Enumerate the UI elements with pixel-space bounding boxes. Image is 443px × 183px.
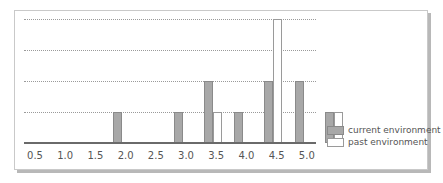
bar-past bbox=[213, 112, 222, 143]
gridline-3 bbox=[24, 50, 316, 51]
x-axis-line bbox=[24, 142, 316, 144]
x-tick-label: 1.5 bbox=[80, 150, 110, 161]
x-tick-label: 3.5 bbox=[201, 150, 231, 161]
x-tick-label: 4.5 bbox=[262, 150, 292, 161]
bar-current bbox=[174, 112, 183, 143]
x-tick-label: 3.0 bbox=[171, 150, 201, 161]
x-tick-label: 0.5 bbox=[20, 150, 50, 161]
bar-past bbox=[273, 19, 282, 143]
legend-swatch-current bbox=[327, 126, 344, 135]
legend-past: past environment bbox=[327, 137, 428, 147]
x-tick-label: 1.0 bbox=[50, 150, 80, 161]
x-tick-label: 2.0 bbox=[111, 150, 141, 161]
x-tick-label: 2.5 bbox=[141, 150, 171, 161]
bar-current bbox=[234, 112, 243, 143]
legend-swatch-past bbox=[327, 138, 344, 147]
bar-current bbox=[264, 81, 273, 143]
x-tick-label: 4.0 bbox=[231, 150, 261, 161]
legend-current: current environment bbox=[327, 125, 441, 135]
gridline-4 bbox=[24, 19, 316, 20]
legend-label-current: current environment bbox=[348, 125, 441, 135]
x-tick-label: 5.0 bbox=[292, 150, 322, 161]
bar-current bbox=[295, 81, 304, 143]
bar-current bbox=[113, 112, 122, 143]
legend-label-past: past environment bbox=[348, 137, 428, 147]
bar-current bbox=[204, 81, 213, 143]
